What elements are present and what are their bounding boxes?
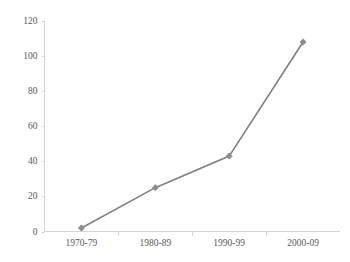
- y-tick-label: 60: [28, 121, 38, 131]
- y-tick-label: 120: [23, 16, 38, 26]
- chart-canvas: 020406080100120 1970-791980-891990-99200…: [0, 0, 350, 262]
- line-chart: 020406080100120 1970-791980-891990-99200…: [0, 0, 350, 262]
- y-tick-label: 80: [28, 86, 38, 96]
- x-tick-label: 1980-89: [139, 238, 171, 248]
- x-tick-label: 2000-09: [287, 238, 319, 248]
- x-tick-label: 1990-99: [213, 238, 245, 248]
- y-tick-label: 0: [33, 227, 38, 237]
- y-tick-label: 40: [28, 156, 38, 166]
- chart-background: [0, 0, 350, 262]
- x-tick-label: 1970-79: [66, 238, 98, 248]
- y-tick-label: 20: [28, 191, 38, 201]
- y-tick-label: 100: [23, 51, 38, 61]
